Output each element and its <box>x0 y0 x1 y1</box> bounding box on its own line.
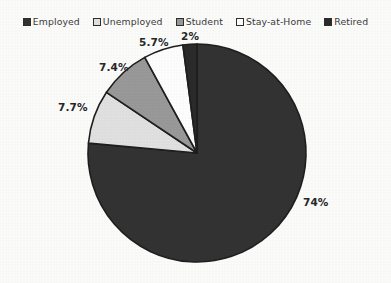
data-label-employed: 74% <box>303 196 328 208</box>
pie-plot-area <box>0 0 391 283</box>
pie-svg <box>0 0 391 283</box>
pie-chart-figure: Employed Unemployed Student Stay-at-Home… <box>0 0 391 283</box>
pie-slices <box>88 44 306 262</box>
data-label-stay-at-home: 5.7% <box>139 36 169 48</box>
data-label-unemployed: 7.7% <box>58 101 88 113</box>
data-label-retired: 2% <box>181 30 199 42</box>
data-label-student: 7.4% <box>99 61 129 73</box>
